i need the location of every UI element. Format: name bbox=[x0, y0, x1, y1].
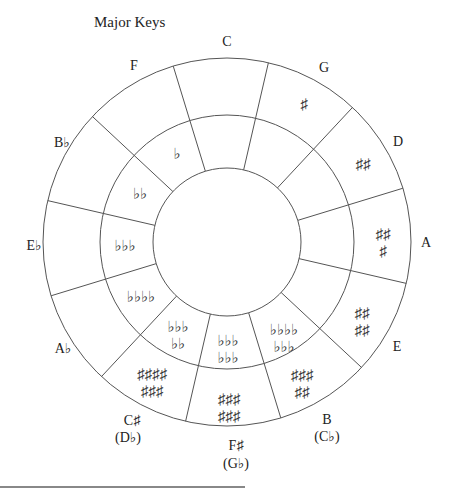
spokes bbox=[48, 63, 407, 422]
signature-a-flat: ♭♭♭♭ bbox=[127, 289, 155, 306]
signature-f: ♭ bbox=[173, 146, 180, 163]
key-label-b-alt: (C♭) bbox=[314, 429, 339, 445]
key-label-e-flat: E♭ bbox=[26, 238, 41, 254]
spoke bbox=[277, 107, 352, 187]
key-label-c-sharp-alt: (D♭) bbox=[115, 430, 141, 446]
spoke bbox=[92, 117, 172, 192]
key-label-c: C bbox=[222, 34, 231, 50]
key-label-b: B bbox=[322, 412, 331, 428]
key-label-d: D bbox=[393, 134, 403, 150]
inner-ring bbox=[153, 168, 301, 316]
key-label-f-sharp: F♯ bbox=[229, 438, 244, 454]
spoke bbox=[298, 188, 403, 220]
signature-a: ♯♯ ♯ bbox=[376, 226, 391, 260]
signature-b-flat: ♭♭ bbox=[133, 186, 147, 203]
signature-b: ♯♯♯ ♯♯ bbox=[291, 367, 314, 401]
outer-ring bbox=[43, 58, 411, 426]
middle-ring bbox=[100, 115, 354, 369]
key-label-f-sharp-alt: (G♭) bbox=[223, 456, 249, 472]
key-label-c-sharp: C♯ bbox=[124, 413, 140, 429]
key-label-b-flat: B♭ bbox=[54, 135, 70, 151]
signature-g: ♯ bbox=[300, 96, 308, 113]
signature-c-flat: ♭♭♭♭ ♭♭♭ bbox=[270, 322, 298, 356]
rings bbox=[43, 58, 411, 426]
signature-f-sharp: ♯♯♯ ♯♯♯ bbox=[218, 391, 241, 425]
signature-c-sharp: ♯♯♯♯ ♯♯♯ bbox=[137, 366, 167, 400]
key-label-a: A bbox=[421, 235, 431, 251]
key-label-f: F bbox=[130, 58, 138, 74]
key-label-a-flat: A♭ bbox=[55, 341, 72, 357]
key-label-g: G bbox=[319, 60, 329, 76]
diagram-title: Major Keys bbox=[94, 14, 165, 31]
key-label-e: E bbox=[393, 339, 402, 355]
signature-d-flat: ♭♭♭ ♭♭ bbox=[167, 319, 188, 353]
spoke bbox=[102, 296, 177, 376]
bottom-rule bbox=[0, 486, 245, 488]
signature-g-flat: ♭♭♭ ♭♭♭ bbox=[217, 333, 238, 367]
signature-e-flat: ♭♭♭ bbox=[114, 238, 135, 255]
signature-d: ♯♯ bbox=[356, 156, 371, 173]
signature-e: ♯♯ ♯♯ bbox=[355, 305, 370, 339]
